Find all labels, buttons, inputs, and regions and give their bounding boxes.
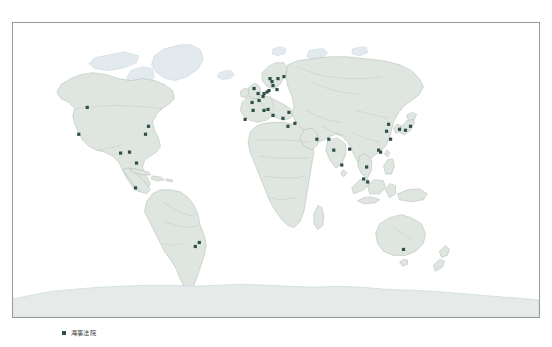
map-marker xyxy=(327,138,330,141)
map-marker xyxy=(119,152,122,155)
map-marker xyxy=(293,122,296,125)
map-marker xyxy=(265,90,268,93)
map-marker xyxy=(332,149,335,152)
map-marker xyxy=(135,161,138,164)
map-marker xyxy=(402,248,405,251)
map-marker xyxy=(362,177,365,180)
map-marker xyxy=(340,163,343,166)
map-marker xyxy=(286,125,289,128)
map-marker xyxy=(134,186,137,189)
map-marker xyxy=(252,87,255,90)
map-marker xyxy=(194,245,197,248)
map-marker xyxy=(270,80,273,83)
map-marker xyxy=(387,123,390,126)
map-marker xyxy=(268,77,271,80)
map-marker xyxy=(244,118,247,121)
map-marker xyxy=(281,117,284,120)
map-marker xyxy=(398,128,401,131)
map-marker xyxy=(251,109,254,112)
map-figure: 海事法院 xyxy=(0,0,552,347)
map-marker xyxy=(77,133,80,136)
legend-marker-swatch xyxy=(62,331,66,335)
map-marker xyxy=(144,133,147,136)
map-marker xyxy=(409,125,412,128)
map-marker xyxy=(287,111,290,114)
map-marker xyxy=(86,106,89,109)
map-marker xyxy=(315,138,318,141)
map-marker xyxy=(261,95,264,98)
map-marker xyxy=(348,148,351,151)
map-marker xyxy=(250,101,253,104)
map-marker xyxy=(389,138,392,141)
map-marker xyxy=(256,92,259,95)
world-map-frame xyxy=(12,22,540,318)
map-marker xyxy=(404,129,407,132)
map-marker xyxy=(262,92,265,95)
map-marker xyxy=(266,108,269,111)
map-marker xyxy=(262,109,265,112)
map-marker xyxy=(271,84,274,87)
map-marker xyxy=(275,88,278,91)
map-marker xyxy=(385,130,388,133)
map-marker xyxy=(282,75,285,78)
map-marker xyxy=(365,165,368,168)
world-map-svg xyxy=(13,23,539,317)
map-marker xyxy=(128,151,131,154)
map-marker xyxy=(257,99,260,102)
map-marker xyxy=(198,241,201,244)
map-marker xyxy=(366,180,369,183)
map-marker xyxy=(271,114,274,117)
map-marker xyxy=(276,77,279,80)
map-marker xyxy=(147,125,150,128)
map-marker xyxy=(377,149,380,152)
legend-label: 海事法院 xyxy=(71,329,97,337)
map-legend: 海事法院 xyxy=(62,327,96,339)
